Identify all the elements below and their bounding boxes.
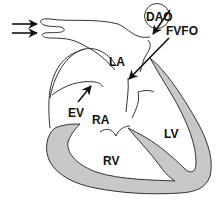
label-rv: RV	[103, 154, 119, 168]
label-ra: RA	[92, 113, 110, 127]
la-inner-curve	[50, 49, 116, 98]
inflow-arrows	[12, 24, 37, 33]
label-la: LA	[109, 55, 125, 69]
label-lv: LV	[164, 127, 178, 141]
eustachian-valve	[52, 82, 103, 95]
septum-branch	[132, 92, 139, 118]
septum-branch-2	[138, 91, 154, 93]
tricuspid-valve	[100, 126, 130, 136]
atrial-outline	[41, 19, 150, 70]
atrial-septum	[126, 78, 128, 112]
label-fvfo: FVFO	[166, 24, 198, 38]
ev-arrow-icon	[78, 86, 91, 102]
heart-diagram: DAO FVFO LA EV RA LV RV	[0, 0, 221, 205]
label-ev: EV	[68, 106, 84, 120]
